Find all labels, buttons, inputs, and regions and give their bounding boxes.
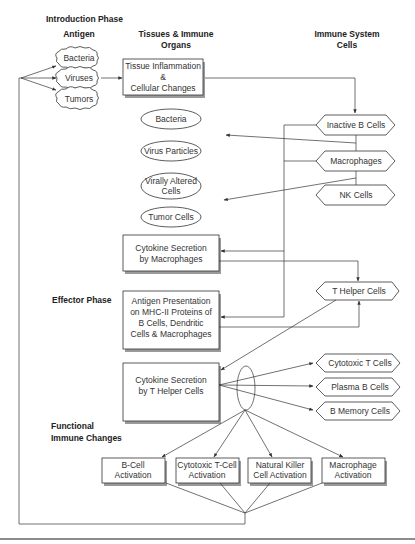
svg-text:Cellular Changes: Cellular Changes — [130, 83, 195, 93]
svg-text:Bacteria: Bacteria — [63, 53, 94, 63]
svg-text:Viruses: Viruses — [65, 73, 93, 83]
header-antigen: Antigen — [63, 29, 95, 39]
grouping-ellipse — [237, 366, 255, 410]
svg-text:Virus Particles: Virus Particles — [144, 146, 198, 156]
svg-text:Inactive B Cells: Inactive B Cells — [327, 120, 386, 130]
svg-text:on MHC-II Proteins of: on MHC-II Proteins of — [130, 307, 212, 317]
svg-text:B Cells, Dendritic: B Cells, Dendritic — [138, 318, 204, 328]
svg-text:Macrophages: Macrophages — [330, 156, 382, 166]
antigen-viruses: Viruses — [56, 67, 99, 90]
svg-text:Activation: Activation — [189, 470, 226, 480]
activation-natural-killer: Natural Killer Cell Activation — [248, 458, 313, 486]
activation-macrophage: Macrophage Activation — [322, 458, 387, 486]
header-functional: Functional — [51, 421, 94, 431]
header-organs: Organs — [161, 40, 191, 50]
svg-text:Cells: Cells — [162, 186, 181, 196]
svg-text:Activation: Activation — [115, 470, 152, 480]
svg-text:Cell Activation: Cell Activation — [253, 470, 307, 480]
svg-text:Tissue Inflammation: Tissue Inflammation — [125, 61, 201, 71]
activation-cytotoxic-t-cell: Cytotoxic T-Cell Activation — [176, 458, 241, 486]
svg-text:Tumor Cells: Tumor Cells — [148, 212, 194, 222]
svg-text:by T Helper Cells: by T Helper Cells — [139, 386, 204, 396]
box-tissue-inflammation: Tissue Inflammation & Cellular Changes — [123, 59, 205, 98]
immune-response-diagram: Introduction Phase Antigen Tissues & Imm… — [0, 0, 415, 544]
svg-text:Plasma B Cells: Plasma B Cells — [331, 382, 389, 392]
antigen-bacteria: Bacteria — [56, 47, 99, 70]
svg-text:Bacteria: Bacteria — [155, 114, 186, 124]
activation-b-cell: B-Cell Activation — [102, 458, 167, 486]
antigen-tumors: Tumors — [56, 87, 99, 110]
cell-inactive-b: Inactive B Cells — [316, 115, 395, 135]
header-immune-system: Immune System — [314, 29, 380, 39]
header-tissues: Tissues & Immune — [139, 29, 214, 39]
svg-text:Tumors: Tumors — [65, 94, 94, 104]
target-bacteria: Bacteria — [141, 109, 201, 129]
svg-text:Cells & Macrophages: Cells & Macrophages — [131, 329, 212, 339]
svg-text:Macrophage: Macrophage — [329, 460, 377, 470]
svg-text:T Helper Cells: T Helper Cells — [332, 286, 386, 296]
svg-text:Cytotoxic T Cells: Cytotoxic T Cells — [328, 358, 391, 368]
cell-b-memory: B Memory Cells — [316, 402, 400, 420]
header-immune-changes: Immune Changes — [51, 433, 122, 443]
box-cytokine-macrophages: Cytokine Secretion by Macrophages — [123, 235, 221, 274]
box-cytokine-t-helper: Cytokine Secretion by T Helper Cells — [123, 363, 221, 424]
cell-macrophages: Macrophages — [316, 151, 395, 171]
svg-text:&: & — [160, 72, 166, 82]
header-cells: Cells — [337, 40, 358, 50]
svg-text:by Macrophages: by Macrophages — [140, 254, 203, 264]
svg-text:B Memory Cells: B Memory Cells — [330, 406, 390, 416]
cell-nk: NK Cells — [316, 185, 395, 205]
svg-text:Cytokine Secretion: Cytokine Secretion — [135, 375, 207, 385]
cell-cytotoxic-t: Cytotoxic T Cells — [316, 354, 400, 372]
target-virally-altered-cells: Virally Altered Cells — [141, 173, 201, 199]
svg-text:Antigen Presentation: Antigen Presentation — [132, 296, 211, 306]
svg-text:Virally Altered: Virally Altered — [145, 176, 197, 186]
target-tumor-cells: Tumor Cells — [141, 207, 201, 227]
box-antigen-presentation: Antigen Presentation on MHC-II Proteins … — [123, 291, 221, 352]
cell-plasma-b: Plasma B Cells — [316, 378, 400, 396]
svg-text:Cytotoxic T-Cell: Cytotoxic T-Cell — [177, 460, 236, 470]
header-introduction-phase: Introduction Phase — [46, 14, 123, 24]
svg-text:Activation: Activation — [335, 470, 372, 480]
target-virus-particles: Virus Particles — [141, 141, 201, 161]
svg-text:B-Cell: B-Cell — [121, 460, 144, 470]
svg-text:Natural Killer: Natural Killer — [256, 460, 305, 470]
cell-t-helper: T Helper Cells — [316, 282, 399, 300]
header-effector-phase: Effector Phase — [52, 295, 112, 305]
svg-text:Cytokine Secretion: Cytokine Secretion — [135, 243, 207, 253]
svg-text:NK Cells: NK Cells — [339, 190, 372, 200]
